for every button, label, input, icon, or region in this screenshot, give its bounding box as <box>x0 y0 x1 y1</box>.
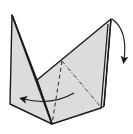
origami-diagram: origami-fold-step <box>0 0 133 134</box>
paper-body <box>37 19 111 124</box>
fold-down-arrow-icon <box>112 19 125 60</box>
origami-fold-svg <box>0 0 133 134</box>
